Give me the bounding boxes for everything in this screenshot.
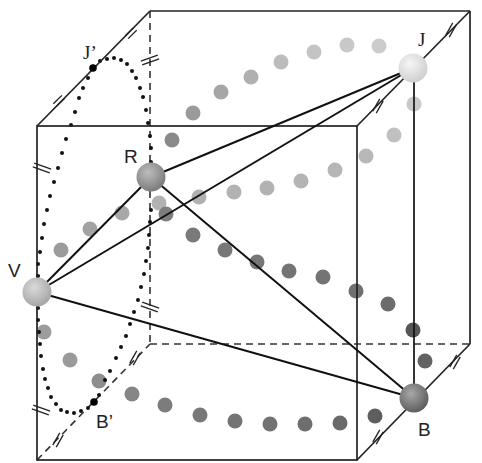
label-B-prime: B’ <box>96 411 113 432</box>
line-R-J <box>151 68 413 177</box>
label-J-prime: J’ <box>83 42 97 63</box>
label-V: V <box>8 260 21 281</box>
label-J: J <box>418 29 425 50</box>
sphere-R <box>137 163 166 192</box>
label-R: R <box>124 146 138 167</box>
sphere-J <box>399 54 428 83</box>
point-B-prime <box>90 398 98 406</box>
cube-diagram: J J’ R V B B’ <box>0 0 482 463</box>
sphere-B <box>400 384 429 413</box>
line-R-B <box>151 177 414 398</box>
point-J-prime <box>89 64 97 72</box>
label-B: B <box>418 419 431 440</box>
sphere-V <box>23 278 52 307</box>
spiral-dots <box>37 38 433 432</box>
